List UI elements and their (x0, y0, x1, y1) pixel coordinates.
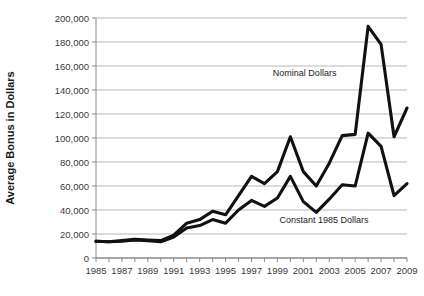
x-tick-label: 1997 (241, 265, 262, 276)
x-tick-label: 1987 (111, 265, 132, 276)
chart-container: 020,00040,00060,00080,000100,000120,0001… (0, 0, 424, 296)
x-tick-label: 2009 (396, 265, 417, 276)
y-tick-label: 160,000 (55, 61, 89, 72)
y-tick-label: 100,000 (55, 133, 89, 144)
x-tick-label: 2005 (345, 265, 366, 276)
y-tick-label: 60,000 (60, 181, 89, 192)
constant-1985-dollars-label: Constant 1985 Dollars (280, 215, 370, 225)
line-chart: 020,00040,00060,00080,000100,000120,0001… (0, 0, 424, 296)
x-tick-label: 1993 (189, 265, 210, 276)
y-tick-label: 180,000 (55, 37, 89, 48)
nominal-dollars-label: Nominal Dollars (273, 68, 337, 78)
x-tick-label: 1985 (85, 265, 106, 276)
y-tick-label: 0 (84, 253, 89, 264)
x-tick-label: 2007 (371, 265, 392, 276)
x-tick-label: 1995 (215, 265, 236, 276)
x-tick-label: 2001 (293, 265, 314, 276)
series-line-constant-1985-dollars (96, 133, 407, 242)
y-tick-label: 120,000 (55, 109, 89, 120)
x-axis-ticks: 1985198719891991199319951997199920012003… (85, 258, 417, 276)
x-tick-label: 1991 (163, 265, 184, 276)
y-tick-label: 40,000 (60, 205, 89, 216)
y-tick-label: 20,000 (60, 229, 89, 240)
series-line-nominal-dollars (96, 26, 407, 241)
x-tick-label: 2003 (319, 265, 340, 276)
y-tick-label: 200,000 (55, 13, 89, 24)
y-tick-label: 80,000 (60, 157, 89, 168)
y-axis-title: Average Bonus in Dollars (4, 71, 16, 204)
y-axis-ticks: 020,00040,00060,00080,000100,000120,0001… (55, 13, 96, 264)
x-tick-label: 1999 (267, 265, 288, 276)
x-tick-label: 1989 (137, 265, 158, 276)
y-tick-label: 140,000 (55, 85, 89, 96)
